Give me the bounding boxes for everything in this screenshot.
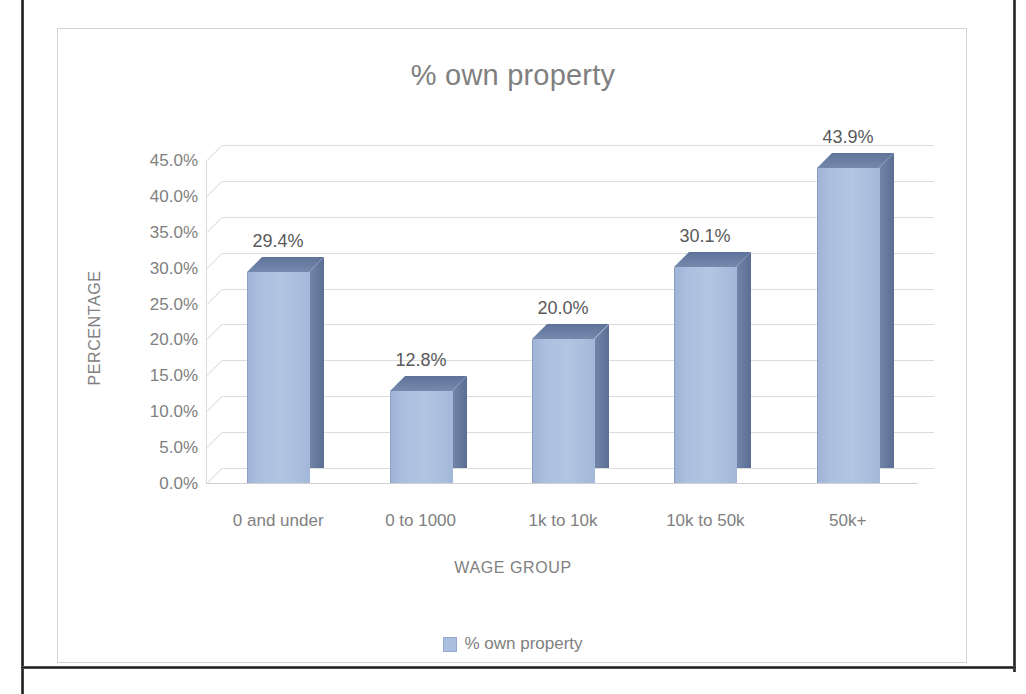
gridline-depth-connector (207, 181, 223, 197)
y-axis-tick-label: 30.0% (108, 260, 198, 277)
bar-top-face-shape (817, 153, 894, 168)
bar-front-face (390, 391, 453, 483)
x-axis-tick-label: 50k+ (777, 511, 919, 531)
gridline-depth-connector (207, 468, 223, 484)
bar-data-label: 29.4% (223, 231, 333, 252)
gridline-depth-connector (207, 217, 223, 233)
bar-front-face (247, 272, 310, 483)
bar-front-face (674, 267, 737, 483)
bar-top-face (817, 153, 894, 168)
y-axis-tick-label: 15.0% (108, 367, 198, 384)
x-axis-tick-label: 0 to 1000 (349, 511, 491, 531)
bar[interactable] (532, 324, 594, 483)
bar-top-face-shape (674, 252, 751, 267)
bar[interactable] (390, 376, 452, 483)
y-axis-tick-label: 40.0% (108, 188, 198, 205)
bar-top-face (532, 324, 609, 339)
x-axis-tick-label: 1k to 10k (492, 511, 634, 531)
bar-side-face (309, 257, 324, 468)
y-axis-line (206, 160, 207, 483)
y-axis-title: PERCENTAGE (86, 253, 104, 403)
chart-container: % own property 29.4%12.8%20.0%30.1%43.9%… (57, 28, 967, 663)
scanned-page: % own property 29.4%12.8%20.0%30.1%43.9%… (0, 0, 1026, 694)
x-axis-tick-label: 0 and under (207, 511, 349, 531)
bar-top-face-shape (390, 376, 467, 391)
legend-swatch-icon (443, 637, 457, 652)
bar-side-face (879, 153, 894, 468)
bar-side-face (594, 324, 609, 468)
x-axis-line (206, 483, 918, 484)
bar[interactable] (674, 252, 736, 483)
bar-data-label: 30.1% (650, 226, 760, 247)
y-axis-tick-label: 25.0% (108, 296, 198, 313)
x-axis-title: WAGE GROUP (58, 559, 968, 577)
bar-front-face (532, 339, 595, 483)
bar-top-face-shape (247, 257, 324, 272)
bar-data-label: 43.9% (793, 127, 903, 148)
document-edge-bottom (21, 666, 1016, 669)
gridline-depth-connector (207, 289, 223, 305)
y-axis-tick-label: 20.0% (108, 331, 198, 348)
bar-top-face (247, 257, 324, 272)
y-axis-tick-label: 5.0% (108, 439, 198, 456)
y-axis-tick-label: 35.0% (108, 224, 198, 241)
bar-top-face (390, 376, 467, 391)
bar-top-face (674, 252, 751, 267)
y-axis-tick-label: 45.0% (108, 152, 198, 169)
gridline-depth-connector (207, 325, 223, 341)
legend: % own property (58, 634, 968, 654)
gridline-depth-connector (207, 253, 223, 269)
gridline-depth-connector (207, 397, 223, 413)
bar-front-face (817, 168, 880, 483)
legend-label: % own property (464, 634, 582, 654)
gridline-depth-connector (207, 361, 223, 377)
y-axis-tick-label: 10.0% (108, 403, 198, 420)
bar[interactable] (817, 153, 879, 483)
gridline-depth-connector (207, 145, 223, 161)
gridline-depth-connector (207, 432, 223, 448)
bar-data-label: 12.8% (366, 350, 476, 371)
bar-side-face (736, 252, 751, 468)
x-axis-tick-label: 10k to 50k (634, 511, 776, 531)
bar[interactable] (247, 257, 309, 483)
bar-top-face-shape (532, 324, 609, 339)
bar-data-label: 20.0% (508, 298, 618, 319)
document-edge-right (1013, 0, 1016, 672)
document-edge-left (21, 0, 24, 694)
y-axis-tick-label: 0.0% (108, 475, 198, 492)
